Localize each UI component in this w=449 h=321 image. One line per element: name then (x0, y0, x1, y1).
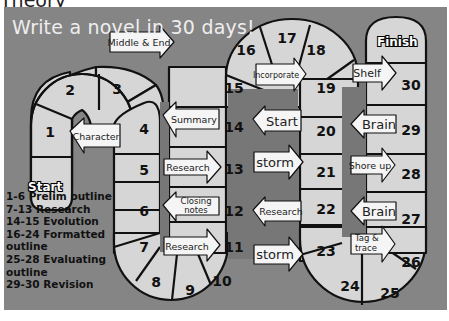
cell-14: 14 (224, 119, 244, 135)
legend-item: outline (6, 240, 112, 253)
arrow-label-notes: notes (184, 205, 208, 215)
cell-23: 23 (316, 243, 335, 259)
cell-7: 7 (139, 239, 149, 255)
cell-9: 9 (185, 282, 195, 298)
legend-item: 14-15 Evolution (6, 215, 112, 228)
arrow-label-research-5: Research (166, 162, 210, 173)
arrow-label-tag: Tag & (354, 233, 379, 243)
legend-item: 1-6 Prelim outline (6, 190, 112, 203)
cell-15: 15 (224, 80, 243, 96)
legend-item: outline (6, 266, 112, 279)
cell-24: 24 (340, 278, 360, 294)
legend-item: 16-24 Formatted (6, 228, 112, 241)
arrow-label-incorporate: Incorporate (253, 71, 299, 80)
cell-21: 21 (316, 164, 335, 180)
cell-10: 10 (212, 273, 232, 289)
arrow-label-brain-29: Brain (362, 117, 396, 132)
cell-13: 13 (224, 161, 243, 177)
cell-5: 5 (139, 162, 149, 178)
cell-30: 30 (401, 77, 421, 93)
arrow-label-character: Character (73, 131, 120, 142)
legend-item: 7-13 Research (6, 203, 112, 216)
legend-item: 29-30 Revision (6, 278, 112, 291)
cell-6: 6 (139, 203, 149, 219)
cell-1: 1 (45, 124, 55, 140)
cell-26: 26 (401, 254, 420, 270)
board-title: Write a novel in 30 days! (12, 16, 255, 38)
cell-8: 8 (151, 274, 161, 290)
cell-29: 29 (401, 122, 420, 138)
arrow-label-research-7: Research (165, 241, 209, 252)
cell-25: 25 (380, 285, 399, 301)
arrow-label-start: Start (266, 114, 298, 129)
arrow-label-trace: trace (355, 243, 377, 253)
cell-27: 27 (401, 211, 420, 227)
cell-11: 11 (224, 239, 243, 255)
cell-28: 28 (401, 166, 420, 182)
cell-16: 16 (236, 42, 255, 58)
arrow-label-shelf: Shelf (353, 67, 382, 80)
arrow-label-middle-end: Middle & End (108, 37, 171, 48)
cell-4: 4 (139, 121, 149, 137)
arrow-label-storm-11: storm (256, 247, 294, 262)
cell-17: 17 (277, 30, 296, 46)
cell-22: 22 (316, 201, 335, 217)
arrow-label-storm-13: storm (256, 155, 294, 170)
cell-12: 12 (224, 203, 243, 219)
cell-19: 19 (316, 80, 335, 96)
cell-18: 18 (306, 42, 325, 58)
arrow-label-shore-up: Shore up (349, 160, 391, 171)
game-board: 1 2 3 4 5 6 7 8 9 10 11 12 13 14 15 16 1… (4, 7, 447, 310)
cell-20: 20 (316, 123, 336, 139)
arrow-label-research-12: Research (259, 206, 303, 217)
cell-2: 2 (65, 82, 75, 98)
legend: 1-6 Prelim outline 7-13 Research 14-15 E… (6, 190, 112, 291)
legend-item: 25-28 Evaluating (6, 253, 112, 266)
finish-label: Finish (377, 35, 418, 49)
arrow-label-summary: Summary (171, 114, 217, 125)
arrow-label-brain-27: Brain (362, 204, 396, 219)
cell-3: 3 (112, 81, 122, 97)
